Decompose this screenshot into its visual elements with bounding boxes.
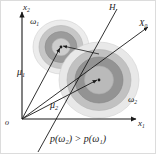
mean1-label: μ1 xyxy=(17,67,25,78)
hyperplane-label: H xyxy=(109,3,116,12)
prior-inequality-caption: p(ω₂) > p(ω₁) xyxy=(0,134,156,144)
mean-point-mu1 xyxy=(60,46,63,49)
y-axis-label: x2 xyxy=(23,3,30,13)
class2-label: ω2 xyxy=(128,95,137,105)
projection-axis-label: X0 xyxy=(139,19,147,29)
bayes-decision-boundary-figure: x2 x1 o ω1 ω2 μ1 μ2 H X0 p(ω₂) > p(ω₁) xyxy=(0,0,156,154)
class1-label: ω1 xyxy=(30,17,39,27)
x-axis-label: x1 xyxy=(138,119,145,129)
origin-label: o xyxy=(5,119,9,127)
mean-point-mu2 xyxy=(98,79,101,82)
mean2-label: μ2 xyxy=(50,100,58,111)
